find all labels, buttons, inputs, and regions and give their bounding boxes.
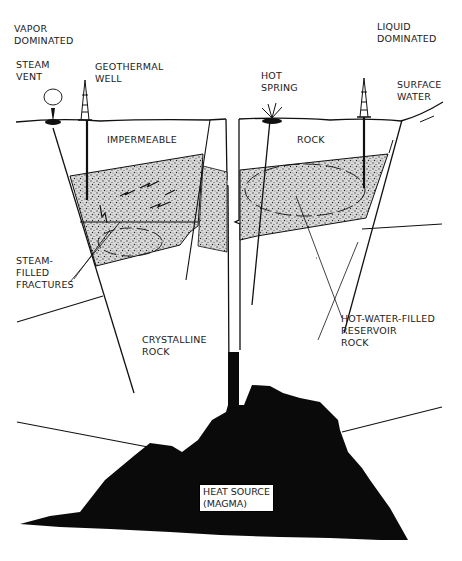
magma-body — [20, 385, 408, 540]
hot-spring-label: HOT SPRING — [261, 70, 298, 94]
rock-label: ROCK — [297, 134, 325, 146]
heat-source-label: HEAT SOURCE (MAGMA) — [199, 484, 274, 512]
vapor-dominated-heading: VAPOR DOMINATED — [14, 23, 74, 47]
hot-spring-icon — [262, 103, 282, 124]
geothermal-well-label: GEOTHERMAL WELL — [95, 61, 163, 85]
liquid-dominated-heading: LIQUID DOMINATED — [377, 21, 437, 45]
steam-vent-label: STEAM VENT — [16, 59, 50, 83]
inflow-arrow-icon — [389, 116, 434, 153]
steam-filled-fractures-label: STEAM- FILLED FRACTURES — [16, 255, 74, 291]
hot-water-reservoir-label: HOT-WATER-FILLED RESERVOIR ROCK — [341, 313, 435, 349]
surface-water-label: SURFACE WATER — [397, 79, 442, 103]
magma-conduit — [228, 352, 239, 407]
crystalline-rock-label: CRYSTALLINE ROCK — [142, 334, 207, 358]
impermeable-label: IMPERMEABLE — [107, 134, 177, 146]
